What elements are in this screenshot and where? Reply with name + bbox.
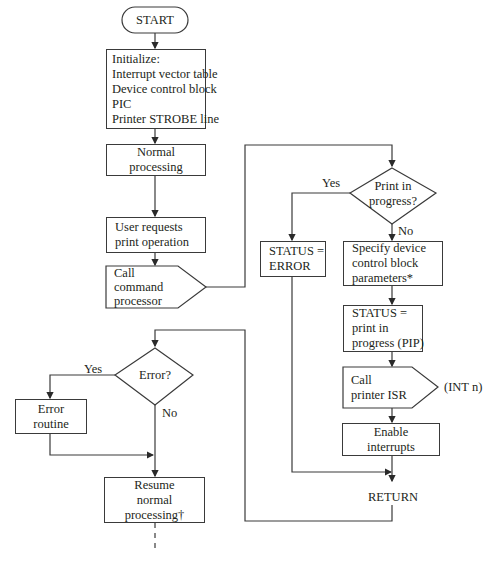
- error-routine-box: Error routine: [15, 399, 87, 434]
- error-decision-label: Error?: [139, 368, 171, 383]
- specify-dcb-line: parameters*: [352, 271, 442, 286]
- start-terminal: START: [122, 7, 188, 33]
- user-requests-line: print operation: [115, 235, 205, 250]
- call-command-processor: Call command processor: [106, 266, 178, 308]
- user-requests-box: User requests print operation: [106, 217, 206, 253]
- initialize-box: Initialize: Interrupt vector table Devic…: [106, 49, 206, 129]
- initialize-line: Initialize:: [112, 52, 205, 67]
- print-decision-yes-label: Yes: [322, 176, 340, 191]
- print-in-progress-decision: Print in progress?: [358, 178, 428, 210]
- call-command-line: command: [114, 280, 178, 294]
- specify-dcb-line: Specify device: [352, 241, 442, 256]
- print-decision-line: Print in: [374, 179, 411, 194]
- status-pip-line: STATUS =: [352, 306, 422, 321]
- enable-interrupts-line: interrupts: [367, 440, 415, 455]
- status-error-line: ERROR: [269, 259, 325, 274]
- normal-processing-box: Normal processing: [106, 144, 206, 176]
- resume-line: Resume: [134, 478, 174, 493]
- initialize-line: PIC: [112, 97, 205, 112]
- error-decision: Error?: [125, 368, 185, 383]
- status-pip-line: progress (PIP): [352, 336, 422, 351]
- print-decision-no-label: No: [398, 224, 413, 239]
- error-routine-line: routine: [33, 417, 68, 432]
- call-isr-line: printer ISR: [351, 388, 413, 403]
- user-requests-line: User requests: [115, 220, 205, 235]
- enable-interrupts-line: Enable: [374, 425, 409, 440]
- specify-dcb-box: Specify device control block parameters*: [343, 241, 443, 286]
- resume-line: processing†: [125, 508, 185, 523]
- specify-dcb-line: control block: [352, 256, 442, 271]
- status-pip-line: print in: [352, 321, 422, 336]
- call-printer-isr: Call printer ISR: [343, 367, 413, 408]
- error-routine-line: Error: [38, 402, 64, 417]
- error-decision-yes-label: Yes: [84, 362, 102, 377]
- print-decision-line: progress?: [369, 194, 417, 209]
- enable-interrupts-box: Enable interrupts: [342, 423, 440, 456]
- initialize-line: Printer STROBE line: [112, 112, 205, 127]
- return-terminal: RETURN: [368, 490, 418, 505]
- normal-processing-line: Normal: [137, 145, 175, 160]
- normal-processing-line: processing: [129, 160, 182, 175]
- status-error-box: STATUS = ERROR: [260, 241, 326, 277]
- status-pip-box: STATUS = print in progress (PIP): [343, 305, 423, 352]
- start-label: START: [136, 13, 174, 28]
- status-error-line: STATUS =: [269, 244, 325, 259]
- error-decision-no-label: No: [162, 406, 177, 421]
- call-command-line: processor: [114, 294, 178, 308]
- resume-line: normal: [137, 493, 172, 508]
- resume-normal-processing-box: Resume normal processing†: [104, 477, 205, 523]
- call-isr-line: Call: [351, 373, 413, 388]
- initialize-line: Interrupt vector table: [112, 67, 205, 82]
- int-n-annotation: (INT n): [444, 380, 482, 395]
- call-command-line: Call: [114, 266, 178, 280]
- initialize-line: Device control block: [112, 82, 205, 97]
